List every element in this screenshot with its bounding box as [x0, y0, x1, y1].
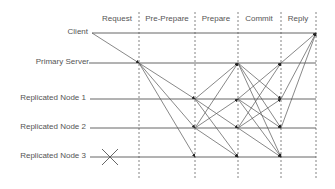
message-arrow — [281, 33, 316, 99]
node-label: Replicated Node 3 — [20, 151, 86, 161]
message-arrows — [92, 33, 316, 157]
message-arrow — [139, 63, 195, 128]
pbft-diagram: ClientPrimary ServerReplicated Node 1Rep… — [0, 0, 335, 189]
message-arrow — [92, 33, 139, 63]
message-arrow — [139, 63, 195, 99]
node-label: Primary Server — [36, 57, 89, 67]
message-arrow — [195, 63, 238, 99]
node-label: Replicated Node 1 — [20, 93, 86, 103]
phase-label: Reply — [268, 14, 328, 24]
phase-boundaries — [139, 12, 316, 178]
message-arrow — [195, 128, 238, 157]
message-arrow — [195, 63, 238, 128]
node-label: Replicated Node 2 — [20, 122, 86, 132]
node-timelines — [89, 33, 316, 157]
message-arrow — [139, 63, 195, 157]
node-label: Client — [68, 27, 88, 37]
message-arrow — [281, 33, 316, 128]
